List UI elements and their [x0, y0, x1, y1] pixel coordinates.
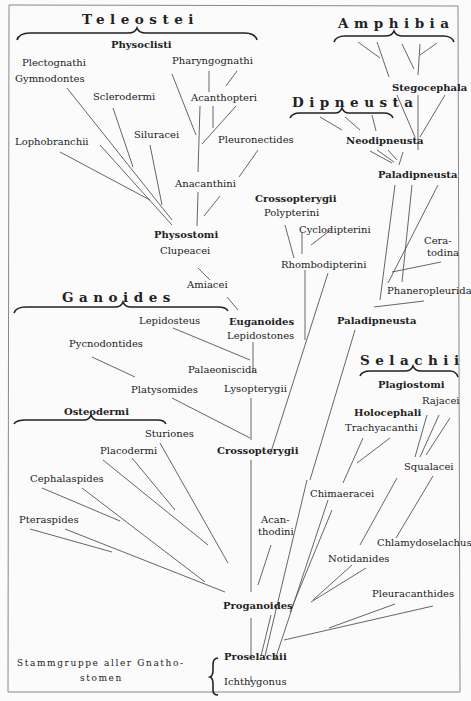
group-title-teleostei: Teleostei: [82, 11, 199, 27]
group-title-osteodermi: Osteodermi: [64, 406, 129, 417]
label-crossopterygii-mid: Crossopterygii: [217, 445, 299, 456]
label-paladipneusta-mid: Paladipneusta: [337, 315, 417, 326]
label-placodermi: Placodermi: [100, 445, 157, 456]
label-acanthodini-1: Acan-: [260, 514, 290, 525]
label-neodipneusta: Neodipneusta: [346, 135, 424, 146]
group-title-selachii: Selachii: [360, 352, 465, 368]
tree-canvas: Teleostei Amphibia Dipneusta Ganoides Se…: [0, 0, 471, 701]
label-rajacei: Rajacei: [422, 395, 460, 406]
group-title-ganoides: Ganoides: [62, 289, 176, 305]
label-crossopterygii-top: Crossopterygii: [255, 193, 337, 204]
label-anacanthini: Anacanthini: [174, 178, 236, 189]
label-plectognathi: Plectognathi: [22, 57, 86, 68]
group-title-dipneusta: Dipneusta: [292, 94, 419, 110]
amphibia-brace: [334, 31, 454, 42]
group-title-amphibia: Amphibia: [337, 15, 454, 31]
label-squalacei: Squalacei: [404, 461, 454, 472]
label-chimaeracei: Chimaeracei: [310, 488, 374, 499]
label-siluracei: Siluracei: [134, 129, 179, 140]
label-pleuracanthides: Pleuracanthides: [372, 588, 454, 599]
label-lepidostones: Lepidostones: [227, 330, 294, 341]
label-physostomi: Physostomi: [154, 229, 218, 240]
label-phaneropleurida: Phaneropleurida: [387, 285, 471, 296]
label-lophobranchii: Lophobranchii: [15, 136, 89, 147]
label-gymnodontes: Gymnodontes: [15, 73, 85, 84]
label-acanthopteri: Acanthopteri: [190, 92, 257, 103]
label-proganoides: Proganoides: [223, 600, 293, 611]
label-amiacei: Amiacei: [186, 279, 228, 290]
label-polypterini: Polypterini: [264, 207, 319, 218]
label-ceratodina-2: todina: [427, 247, 459, 258]
label-holocephali: Holocephali: [354, 407, 422, 418]
label-acanthodini-2: thodini: [258, 526, 294, 537]
label-pharyngognathi: Pharyngognathi: [172, 55, 253, 66]
label-sturiones: Sturiones: [145, 428, 194, 439]
label-cyclodipterini: Cyclodipterini: [299, 224, 371, 235]
root-caption-line1: Stammgruppe aller Gnatho-: [17, 658, 185, 668]
label-sclerodermi: Sclerodermi: [93, 91, 155, 102]
label-proselachii: Proselachii: [224, 651, 287, 662]
label-pycnodontides: Pycnodontides: [69, 338, 143, 349]
label-cephalaspides: Cephalaspides: [30, 473, 104, 484]
label-stegocephala: Stegocephala: [392, 82, 468, 93]
label-platysomides: Platysomides: [131, 384, 198, 395]
label-trachyacanthi: Trachyacanthi: [345, 422, 418, 433]
label-clupeacei: Clupeacei: [160, 245, 210, 256]
label-rhombodipterini: Rhombodipterini: [281, 259, 366, 270]
label-palaeoniscida: Palaeoniscida: [188, 364, 257, 375]
root-caption-line2: stomen: [80, 673, 123, 683]
label-paladipneusta-top: Paladipneusta: [378, 169, 458, 180]
label-lysopterygii: Lysopterygii: [224, 383, 287, 394]
label-plagiostomi: Plagiostomi: [378, 379, 445, 390]
label-chlamydoselachus: Chlamydoselachus: [377, 537, 471, 548]
label-lepidosteus: Lepidosteus: [139, 315, 200, 326]
label-euganoides: Euganoides: [229, 316, 294, 327]
phylogenetic-tree-figure: Teleostei Amphibia Dipneusta Ganoides Se…: [0, 0, 471, 701]
label-pleuronectides: Pleuronectides: [218, 134, 294, 145]
label-ceratodina-1: Cera-: [424, 235, 452, 246]
label-ichthygonus: Ichthygonus: [224, 676, 287, 687]
label-notidanides: Notidanides: [328, 553, 389, 564]
label-physoclisti: Physoclisti: [111, 39, 172, 50]
proselachii-brace: [210, 658, 218, 695]
label-pteraspides: Pteraspides: [19, 514, 79, 525]
root-caption: Stammgruppe aller Gnatho- stomen: [17, 658, 185, 683]
